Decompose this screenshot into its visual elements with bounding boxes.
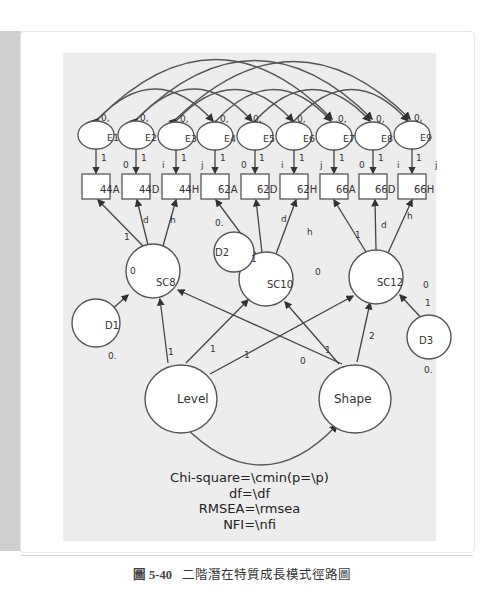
- svg-text:0,: 0,: [376, 114, 385, 124]
- observed-label: 62A: [218, 184, 238, 195]
- observed-label: 66A: [336, 184, 356, 195]
- svg-text:1: 1: [378, 153, 384, 163]
- svg-text:1: 1: [181, 153, 187, 163]
- fit-nfi: NFI=\nfi: [63, 517, 436, 533]
- observed-label: 66D: [375, 184, 396, 195]
- error-label: E7: [343, 133, 355, 144]
- svg-text:0: 0: [123, 160, 129, 170]
- svg-text:j: j: [434, 160, 438, 170]
- svg-text:0: 0: [241, 160, 247, 170]
- error-label: E4: [224, 133, 236, 144]
- error-label: E8: [381, 133, 393, 144]
- svg-text:1: 1: [124, 232, 130, 242]
- svg-text:1: 1: [299, 153, 305, 163]
- svg-text:0,: 0,: [253, 114, 262, 124]
- fit-chi-square: Chi-square=\cmin(p=\p): [63, 470, 436, 486]
- cov-arc-e3-e9: [176, 62, 410, 120]
- cov-arc-e1-e4: [98, 89, 213, 121]
- disturbance-label: D3: [419, 335, 433, 346]
- svg-text:j: j: [200, 160, 204, 170]
- svg-text:0,: 0,: [297, 114, 306, 124]
- cov-arc-e6-e9: [294, 90, 408, 122]
- svg-text:1: 1: [416, 153, 422, 163]
- latent-label: SC12: [377, 277, 403, 288]
- svg-text:1: 1: [210, 344, 216, 354]
- svg-text:0: 0: [359, 160, 365, 170]
- observed-label: 62H: [297, 184, 317, 195]
- svg-text:0,: 0,: [338, 114, 347, 124]
- disturbance-label: D2: [215, 247, 229, 258]
- svg-text:i: i: [281, 160, 284, 170]
- latent-label: Shape: [334, 392, 372, 406]
- svg-text:d: d: [143, 215, 149, 225]
- fit-indices: Chi-square=\cmin(p=\p) df=\df RMSEA=\rms…: [63, 470, 436, 532]
- svg-text:0,: 0,: [220, 114, 229, 124]
- svg-text:1: 1: [101, 153, 107, 163]
- svg-text:1: 1: [325, 345, 331, 355]
- svg-text:0.: 0.: [424, 365, 433, 375]
- observed-label: 44A: [100, 184, 120, 195]
- svg-text:i: i: [162, 160, 165, 170]
- svg-text:0,: 0,: [101, 113, 110, 123]
- svg-text:i: i: [397, 160, 400, 170]
- observed-label: 62D: [257, 184, 278, 195]
- svg-text:0: 0: [315, 267, 321, 277]
- svg-text:1: 1: [259, 153, 265, 163]
- observed-label: 66H: [414, 184, 434, 195]
- error-label: E1: [107, 132, 119, 143]
- error-label: E6: [303, 133, 315, 144]
- disturbance-label: D1: [105, 320, 119, 331]
- svg-text:2: 2: [369, 331, 375, 341]
- observed-label: 44H: [179, 184, 199, 195]
- svg-text:0,: 0,: [180, 114, 189, 124]
- latent-label: SC8: [156, 277, 176, 288]
- svg-text:0.: 0.: [215, 218, 224, 228]
- error-label: E5: [263, 133, 275, 144]
- error-label: E3: [185, 133, 197, 144]
- svg-text:h: h: [170, 215, 176, 225]
- svg-text:1: 1: [141, 153, 147, 163]
- svg-text:0: 0: [423, 280, 429, 290]
- svg-text:h: h: [407, 211, 413, 221]
- svg-text:1: 1: [339, 153, 345, 163]
- error-label: E2: [145, 132, 157, 143]
- fit-rmsea: RMSEA=\rmsea: [63, 501, 436, 517]
- caption-text: 二階潛在特質成長模式徑路圖: [182, 567, 351, 582]
- caption-number: 圖 5-40: [133, 568, 172, 582]
- svg-text:j: j: [319, 160, 323, 170]
- svg-text:1: 1: [220, 153, 226, 163]
- svg-text:1: 1: [244, 350, 250, 360]
- svg-text:0.: 0.: [108, 351, 117, 361]
- svg-text:1: 1: [425, 298, 431, 308]
- error-label: E9: [420, 132, 432, 143]
- svg-text:1: 1: [251, 254, 257, 264]
- cov-arc-e5-e8: [255, 90, 370, 122]
- svg-text:0,: 0,: [140, 113, 149, 123]
- svg-text:d: d: [281, 214, 287, 224]
- latent-label: Level: [177, 392, 209, 406]
- svg-text:h: h: [307, 227, 313, 237]
- svg-text:1: 1: [168, 347, 174, 357]
- observed-label: 44D: [139, 184, 160, 195]
- svg-text:0: 0: [300, 356, 306, 366]
- caption-divider: [21, 555, 473, 556]
- latent-label: SC10: [267, 279, 293, 290]
- cov-arc-level-shape: [183, 425, 337, 465]
- svg-text:d: d: [381, 220, 387, 230]
- cov-arc-e4-e7: [216, 90, 331, 122]
- svg-text:0: 0: [130, 266, 136, 276]
- figure-caption: 圖 5-40二階潛在特質成長模式徑路圖: [0, 564, 484, 583]
- svg-text:0,: 0,: [414, 113, 423, 123]
- fit-df: df=\df: [63, 486, 436, 502]
- svg-text:1: 1: [355, 230, 361, 240]
